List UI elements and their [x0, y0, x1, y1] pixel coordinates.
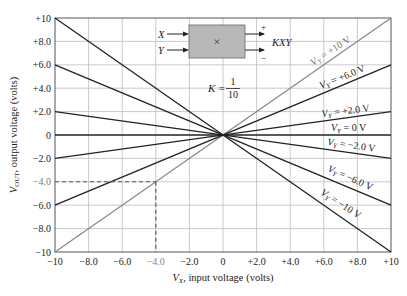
y-axis-label: VOUT, output voltage (volts) — [8, 76, 21, 193]
arrow-out-minus-icon — [259, 48, 265, 53]
svg-text:−10: −10 — [47, 256, 63, 267]
svg-text:+6.0: +6.0 — [33, 59, 51, 70]
minus-terminal-label: − — [261, 53, 266, 63]
svg-text:+10: +10 — [383, 256, 399, 267]
plus-terminal-label: + — [261, 22, 266, 32]
svg-text:−4.0: −4.0 — [147, 256, 165, 267]
svg-text:0: 0 — [221, 256, 226, 267]
label-vy-0: VY = 0 V — [331, 122, 367, 135]
svg-text:+10: +10 — [35, 13, 51, 24]
multiplier-transfer-chart: +10 +8.0 +6.0 +4.0 +2.0 0 −2.0 −4.0 −6.0… — [0, 0, 407, 296]
svg-text:−2.0: −2.0 — [180, 256, 198, 267]
svg-text:+2.0: +2.0 — [33, 106, 51, 117]
svg-text:+2.0: +2.0 — [248, 256, 266, 267]
svg-text:−6.0: −6.0 — [113, 256, 131, 267]
label-vy-plus10: VY = +10 V — [308, 33, 354, 69]
svg-text:1: 1 — [231, 76, 236, 87]
input-y-label: Y — [158, 45, 165, 56]
svg-text:+6.0: +6.0 — [315, 256, 333, 267]
arrow-x-icon — [183, 32, 189, 37]
input-x-label: X — [157, 29, 165, 40]
multiplier-block-diagram: × X Y + − KXY — [157, 22, 292, 63]
arrow-y-icon — [183, 48, 189, 53]
svg-text:+8.0: +8.0 — [33, 36, 51, 47]
svg-text:+4.0: +4.0 — [281, 256, 299, 267]
svg-text:−6.0: −6.0 — [33, 200, 51, 211]
multiply-symbol: × — [213, 34, 220, 49]
x-axis-label: VX, input voltage (volts) — [172, 272, 274, 285]
svg-text:−2.0: −2.0 — [33, 153, 51, 164]
output-kxy-label: KXY — [271, 37, 292, 48]
svg-text:−4.0: −4.0 — [33, 176, 51, 187]
svg-text:10: 10 — [228, 89, 238, 100]
svg-text:K =: K = — [207, 82, 226, 94]
y-tick-labels: +10 +8.0 +6.0 +4.0 +2.0 0 −2.0 −4.0 −6.0… — [33, 13, 51, 258]
label-vy-minus6: VY = −6.0 V — [325, 163, 375, 195]
svg-text:+8.0: +8.0 — [348, 256, 366, 267]
arrow-out-plus-icon — [259, 32, 265, 37]
svg-text:0: 0 — [46, 130, 51, 141]
svg-text:−8.0: −8.0 — [33, 223, 51, 234]
x-tick-labels: −10 −8.0 −6.0 −4.0 −2.0 0 +2.0 +4.0 +6.0… — [47, 256, 399, 267]
svg-text:+4.0: +4.0 — [33, 83, 51, 94]
svg-text:−8.0: −8.0 — [80, 256, 98, 267]
